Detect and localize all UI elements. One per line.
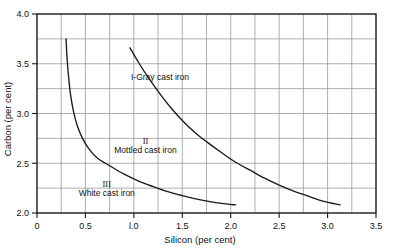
x-tick-labels-group: 00.5l.01.52.02.53.03.5 <box>34 221 382 231</box>
x-tick-label: 0 <box>34 221 39 231</box>
x-axis-title: Silicon (per cent) <box>164 234 235 245</box>
y-tick-label: 2.0 <box>16 208 29 218</box>
y-tick-label: 3.5 <box>16 59 29 69</box>
chart-canvas: 00.5l.01.52.02.53.03.5 2.02.53.03.54.0 I… <box>0 0 400 250</box>
y-tick-labels-group: 2.02.53.03.54.0 <box>16 9 29 218</box>
y-tick-label: 4.0 <box>16 9 29 19</box>
x-tick-label: 3.5 <box>370 221 383 231</box>
y-tick-label: 3.0 <box>16 109 29 119</box>
x-tick-label: l.0 <box>129 221 139 231</box>
chart-figure: 00.5l.01.52.02.53.03.5 2.02.53.03.54.0 I… <box>0 0 400 250</box>
gridlines-group <box>37 14 376 213</box>
annotation-region-2: Mottled cast iron <box>114 145 177 155</box>
annotation-region-1: I-Gray cast iron <box>131 72 189 82</box>
x-tick-label: 3.0 <box>321 221 334 231</box>
annotation-region-3: White cast iron <box>79 188 135 198</box>
y-tick-label: 2.5 <box>16 159 29 169</box>
x-tick-label: 1.5 <box>176 221 189 231</box>
x-tick-label: 0.5 <box>79 221 92 231</box>
y-axis-title: Carbon (per cent) <box>2 82 13 156</box>
x-tick-label: 2.0 <box>224 221 237 231</box>
x-tick-label: 2.5 <box>273 221 286 231</box>
